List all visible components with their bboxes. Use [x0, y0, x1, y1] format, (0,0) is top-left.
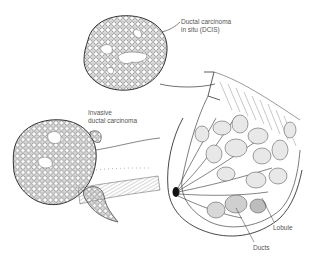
label-ducts: Ducts	[253, 244, 270, 252]
illustration	[0, 0, 311, 266]
breast-anatomy	[168, 72, 302, 242]
invasive-duct-cross-section	[13, 120, 160, 222]
label-lobule: Lobule	[273, 224, 293, 232]
label-invasive-ductal-carcinoma: Invasive ductal carcinoma	[88, 109, 137, 124]
label-dcis: Ductal carcinoma in situ (DCIS)	[181, 18, 231, 33]
